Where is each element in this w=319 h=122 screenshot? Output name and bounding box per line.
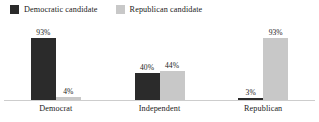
category-label-democrat: Democrat <box>4 104 108 113</box>
bar-slot-independent-democratic: 40% <box>135 22 160 100</box>
legend-swatch-republican-candidate <box>116 5 125 14</box>
bar-group-republican: 3% 93% Republican <box>211 22 315 122</box>
bar-republican-republican-candidate[interactable]: 93% <box>263 38 288 100</box>
bar-value-republican-republican-candidate: 93% <box>269 29 283 37</box>
bar-value-democrat-republican-candidate: 4% <box>63 88 73 96</box>
bar-democrat-democratic-candidate[interactable]: 93% <box>31 38 56 100</box>
bar-republican-democratic-candidate[interactable]: 3% <box>238 98 263 100</box>
bar-group-independent: 40% 44% Independent <box>108 22 212 122</box>
bar-group-independent-bars: 40% 44% <box>108 22 212 100</box>
bar-value-independent-republican-candidate: 44% <box>165 62 179 70</box>
bar-group-republican-bars: 3% 93% <box>211 22 315 100</box>
bar-slot-republican-democratic: 3% <box>238 22 263 100</box>
legend-entry-democratic-candidate: Democratic candidate <box>10 5 98 14</box>
bar-group-democrat: 93% 4% Democrat <box>4 22 108 122</box>
bar-slot-republican-republican: 93% <box>263 22 288 100</box>
legend-swatch-democratic-candidate <box>10 5 19 14</box>
bar-group-democrat-bars: 93% 4% <box>4 22 108 100</box>
grouped-bar-chart: 93% 4% Democrat 40% <box>0 22 319 122</box>
category-label-independent: Independent <box>108 104 212 113</box>
bar-slot-democrat-republican: 4% <box>56 22 81 100</box>
bar-value-republican-democratic-candidate: 3% <box>246 89 256 97</box>
bar-independent-democratic-candidate[interactable]: 40% <box>135 73 160 100</box>
chart-legend: Democratic candidate Republican candidat… <box>0 0 319 18</box>
legend-label-republican-candidate: Republican candidate <box>130 5 203 14</box>
bar-democrat-republican-candidate[interactable]: 4% <box>56 97 81 100</box>
bar-slot-democrat-democratic: 93% <box>31 22 56 100</box>
bar-slot-independent-republican: 44% <box>160 22 185 100</box>
bar-value-independent-democratic-candidate: 40% <box>140 64 154 72</box>
bar-value-democrat-democratic-candidate: 93% <box>36 29 50 37</box>
bar-independent-republican-candidate[interactable]: 44% <box>160 71 185 100</box>
legend-label-democratic-candidate: Democratic candidate <box>24 5 98 14</box>
legend-entry-republican-candidate: Republican candidate <box>116 5 203 14</box>
category-label-republican: Republican <box>211 104 315 113</box>
bar-groups: 93% 4% Democrat 40% <box>4 22 315 122</box>
